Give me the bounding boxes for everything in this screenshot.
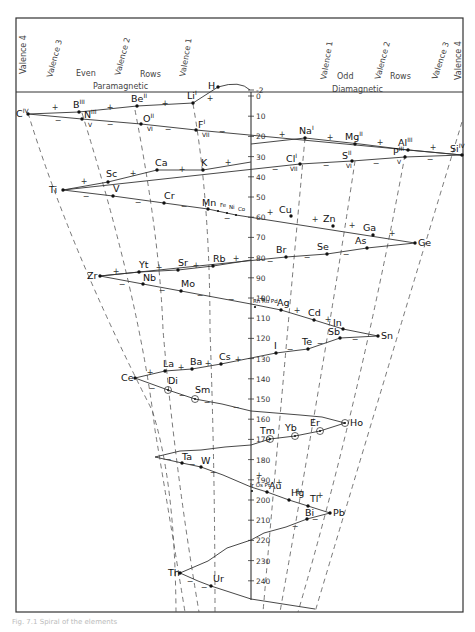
- minus-sign: −: [165, 455, 172, 464]
- minus-sign: −: [287, 345, 294, 354]
- plus-sign: +: [325, 315, 332, 324]
- element-li: LiI: [187, 89, 197, 105]
- element-na: NaI: [299, 124, 314, 140]
- plus-sign: +: [327, 133, 334, 142]
- element-o: OIIVI: [139, 112, 154, 132]
- axis-tick-label: 110: [256, 314, 271, 323]
- element-th: Th: [167, 567, 182, 578]
- element-valence-sub: VI: [346, 162, 352, 169]
- element-dot: [77, 110, 80, 113]
- axis-tick-label: 70: [256, 233, 266, 242]
- element-symbol: Yb: [284, 422, 297, 433]
- axis-tick-label: 40: [256, 173, 266, 182]
- plus-sign: +: [147, 368, 154, 377]
- element-dot: [325, 252, 328, 255]
- axis-tick-label: 30: [256, 153, 266, 162]
- plus-sign: +: [279, 130, 286, 139]
- element-symbol: PIII: [393, 145, 404, 157]
- element-symbol: Ca: [155, 157, 167, 168]
- element-valence-sub: VII: [202, 131, 210, 138]
- element-symbol: Cs: [219, 351, 231, 362]
- element-symbol: Sb: [328, 326, 340, 337]
- element-zr: Zr: [87, 270, 102, 281]
- element-mo: Mo: [179, 278, 195, 293]
- element-v: V: [111, 183, 120, 198]
- element-symbol: W: [201, 455, 211, 466]
- minus-sign: −: [197, 291, 204, 300]
- element-h: H: [208, 80, 220, 91]
- element-dot: [176, 268, 179, 271]
- element-nb: Nb: [141, 272, 156, 286]
- element-dot: [406, 148, 409, 151]
- atomic-weight-axis: -201020304050607080901001101201301401501…: [248, 86, 271, 600]
- element-symbol: Tm: [259, 425, 275, 436]
- element-valence-sup: III: [91, 108, 97, 115]
- axis-tick-label: 150: [256, 395, 271, 404]
- element-spiral-diagram: Valence 4 Valence 3 Even Valence 2 Rows …: [0, 0, 475, 632]
- element-dot: [376, 334, 379, 337]
- element-valence-sup: IV: [459, 142, 466, 149]
- element-dot: [251, 490, 253, 492]
- plus-sign: +: [205, 359, 212, 368]
- element-symbol: FI: [198, 118, 205, 130]
- element-symbol: Ur: [213, 573, 224, 584]
- minus-sign: −: [224, 214, 231, 223]
- minus-sign: −: [135, 198, 142, 207]
- element-valence-sup: III: [399, 145, 405, 152]
- minus-sign: −: [187, 577, 194, 586]
- plus-sign: +: [233, 254, 240, 263]
- element-symbol: Co: [238, 206, 246, 212]
- valence-curves: [28, 104, 462, 612]
- axis-tick-label: 240: [256, 577, 271, 586]
- minus-sign: −: [55, 116, 62, 125]
- plus-sign: +: [389, 229, 396, 238]
- element-symbol: CIV: [16, 107, 29, 119]
- element-fe: Fe: [217, 202, 227, 212]
- minus-sign: −: [165, 125, 172, 134]
- element-dot: [413, 241, 416, 244]
- axis-tick-label: 50: [256, 193, 266, 202]
- element-as: As: [355, 235, 369, 250]
- element-symbol: Yt: [138, 259, 149, 270]
- element-ca: Ca: [155, 157, 167, 172]
- element-symbol: ClI: [286, 152, 297, 164]
- element-er: Er: [310, 417, 324, 435]
- element-dot: [284, 255, 287, 258]
- element-zn: Zn: [323, 213, 336, 228]
- element-valence-sup: IV: [23, 107, 30, 114]
- axis-tick-label: 20: [256, 132, 266, 141]
- element-se: Se: [317, 241, 329, 256]
- element-i: I: [274, 340, 278, 355]
- element-ce: Ce: [121, 372, 137, 383]
- rows-label-left: Rows: [140, 70, 161, 79]
- element-valence-sup: II: [143, 92, 147, 99]
- element-dot: [219, 362, 222, 365]
- element-dot: [162, 201, 165, 204]
- element-dot: [179, 289, 182, 292]
- plus-sign: +: [207, 94, 214, 103]
- axis-tick-label: 0: [256, 92, 261, 101]
- valence-2-label-left: Valence 2: [113, 37, 132, 77]
- valence-4-label-left: Valence 4: [19, 35, 28, 74]
- minus-sign: −: [210, 468, 217, 477]
- element-dot: [312, 318, 315, 321]
- element-dot: [287, 498, 290, 501]
- element-dot: [194, 398, 196, 400]
- axis-tick-label: 180: [256, 456, 271, 465]
- element-sn: Sn: [376, 330, 393, 341]
- element-symbol: H: [208, 80, 215, 91]
- element-symbol: La: [163, 358, 174, 369]
- element-dot: [167, 389, 169, 391]
- element-valence-sub: VI: [147, 125, 153, 132]
- minus-sign: −: [343, 250, 350, 259]
- element-cr: Cr: [162, 190, 174, 205]
- element-br: Br: [276, 244, 288, 259]
- plus-sign: +: [294, 306, 301, 315]
- element-symbol: V: [113, 183, 120, 194]
- element-valence-sup: II: [359, 130, 363, 137]
- minus-sign: −: [373, 159, 380, 168]
- plus-sign: +: [317, 491, 324, 500]
- element-dot: [111, 194, 114, 197]
- minus-sign: −: [189, 460, 196, 469]
- element-dot: [460, 153, 463, 156]
